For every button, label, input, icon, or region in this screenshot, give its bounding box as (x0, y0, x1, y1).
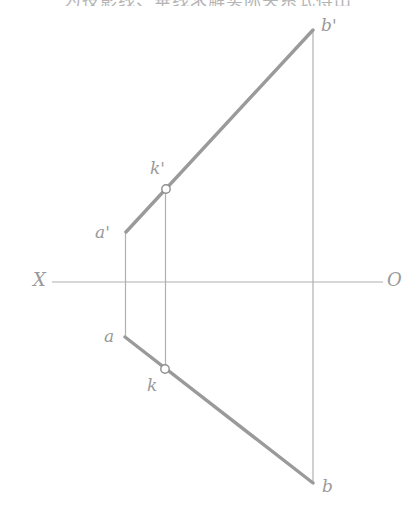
point-label-b: b (322, 478, 333, 495)
point-marker-k-prime (162, 185, 170, 193)
point-label-k: k (147, 377, 157, 394)
point-label-a-prime: a' (95, 224, 110, 241)
point-label-k-prime: k' (150, 160, 165, 177)
axis-label-x: X (33, 271, 46, 289)
front-view-segment-ab (126, 30, 313, 232)
point-label-a: a (104, 328, 114, 345)
diagram-page: 为投影线、垂线求解实际关系式得出 X O a' k' b' a k b (0, 0, 415, 512)
point-label-b-prime: b' (321, 17, 337, 34)
point-marker-k (161, 365, 169, 373)
projection-diagram-canvas (0, 0, 415, 512)
top-view-segment-ab (125, 337, 313, 483)
axis-label-o: O (387, 271, 402, 289)
